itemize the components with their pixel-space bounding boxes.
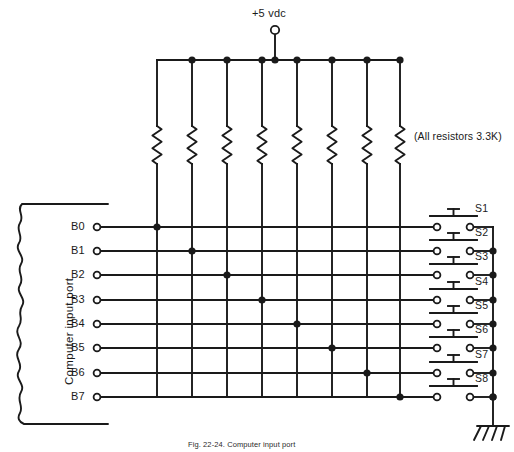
port-terminal-label-B3: B3 — [71, 294, 85, 305]
port-terminal-label-B0: B0 — [71, 221, 85, 232]
switch-label-S1: S1 — [475, 203, 488, 214]
switch-right-terminal-S7 — [467, 370, 474, 377]
switch-label-S3: S3 — [475, 251, 488, 262]
bit-resistor-junction-B1 — [188, 247, 195, 254]
switch-left-terminal-S3 — [434, 272, 441, 279]
port-terminal-label-B2: B2 — [71, 269, 85, 280]
port-terminal-label-B4: B4 — [71, 318, 85, 329]
switch-right-terminal-S4 — [467, 297, 474, 304]
switch-left-terminal-S4 — [434, 297, 441, 304]
port-terminal-B0 — [94, 224, 101, 231]
switch-label-S8: S8 — [475, 373, 488, 384]
port-terminal-label-B6: B6 — [71, 367, 85, 378]
switch-right-terminal-S1 — [467, 224, 474, 231]
resistor-4 — [257, 126, 266, 164]
port-terminal-B3 — [94, 297, 101, 304]
rail-junction-3 — [223, 56, 230, 63]
rail-junction-5 — [293, 56, 300, 63]
bit-resistor-junction-B5 — [328, 344, 335, 351]
switch-right-terminal-S6 — [467, 345, 474, 352]
rail-junction-4 — [258, 56, 265, 63]
switch-right-terminal-S5 — [467, 321, 474, 328]
switch-label-S2: S2 — [475, 227, 488, 238]
port-terminal-B4 — [94, 321, 101, 328]
rail-junction-2 — [188, 56, 195, 63]
ground-bus-junction-S4 — [489, 296, 496, 303]
schematic-figure: +5 vdc (All resistors 3.3K) Computer inp… — [0, 0, 514, 452]
port-terminal-B1 — [94, 248, 101, 255]
ground-bus-junction-S6 — [489, 344, 496, 351]
switch-left-terminal-S5 — [434, 321, 441, 328]
supply-label: +5 vdc — [252, 8, 286, 19]
supply-terminal — [271, 26, 279, 34]
port-terminal-label-B5: B5 — [71, 342, 85, 353]
ground-bus-junction-S7 — [489, 369, 496, 376]
rail-junction-7 — [363, 56, 370, 63]
switch-left-terminal-S7 — [434, 370, 441, 377]
resistor-7 — [362, 126, 371, 164]
bit-resistor-junction-B4 — [293, 320, 300, 327]
switch-label-S4: S4 — [475, 276, 488, 287]
rail-junction-6 — [328, 56, 335, 63]
bit-resistor-junction-B6 — [363, 369, 370, 376]
resistor-6 — [327, 126, 336, 164]
ground-bus-junction-S2 — [489, 247, 496, 254]
ground-bus-junction-bottom — [489, 393, 496, 400]
bit-resistor-junction-B7 — [396, 393, 403, 400]
switch-label-S7: S7 — [475, 349, 488, 360]
switch-left-terminal-S1 — [434, 224, 441, 231]
ground-bus-junction-S3 — [489, 271, 496, 278]
port-terminal-label-B1: B1 — [71, 245, 85, 256]
resistor-5 — [292, 126, 301, 164]
rail-junction-8 — [396, 56, 403, 63]
resistor-2 — [187, 126, 196, 164]
figure-caption: Fig. 22-24. Computer input port — [188, 441, 295, 449]
port-terminal-B7 — [94, 394, 101, 401]
supply-rail-junction — [271, 56, 278, 63]
switch-label-S5: S5 — [475, 300, 488, 311]
port-terminal-label-B7: B7 — [71, 391, 85, 402]
resistor-8 — [395, 126, 404, 164]
switch-right-terminal-S2 — [467, 248, 474, 255]
ground-bus-junction-S5 — [489, 320, 496, 327]
switch-right-terminal-S3 — [467, 272, 474, 279]
switch-left-terminal-S6 — [434, 345, 441, 352]
port-terminal-B2 — [94, 272, 101, 279]
resistor-1 — [152, 126, 161, 164]
port-terminal-B5 — [94, 345, 101, 352]
resistor-3 — [222, 126, 231, 164]
switch-label-S6: S6 — [475, 324, 488, 335]
port-terminal-B6 — [94, 370, 101, 377]
switch-left-terminal-S8 — [434, 394, 441, 401]
bit-resistor-junction-B3 — [258, 296, 265, 303]
resistor-note: (All resistors 3.3K) — [414, 131, 502, 142]
ground-symbol — [474, 426, 509, 440]
switch-left-terminal-S2 — [434, 248, 441, 255]
bit-resistor-junction-B2 — [223, 271, 230, 278]
switch-right-terminal-S8 — [467, 394, 474, 401]
bit-resistor-junction-B0 — [153, 223, 160, 230]
